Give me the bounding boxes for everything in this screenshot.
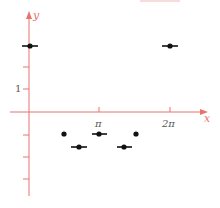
plot-area: x y π 2π 1 xyxy=(0,0,220,208)
x-tick-label-pi: π xyxy=(94,118,102,129)
point-x2pi-3 xyxy=(71,144,87,149)
y-axis-arrow-icon xyxy=(26,11,32,19)
point-x2pi xyxy=(162,43,178,48)
x-axis-label: x xyxy=(204,112,211,125)
y-axis-label: y xyxy=(32,9,40,22)
point-x4pi-3 xyxy=(117,144,132,149)
y-tick-label-1: 1 xyxy=(15,83,21,94)
point-x3pi-2 xyxy=(133,131,138,136)
point-xpi xyxy=(92,131,107,136)
x-tick-label-2pi: 2π xyxy=(161,118,175,129)
point-xpi-2 xyxy=(61,131,66,136)
point-x0 xyxy=(22,43,38,48)
